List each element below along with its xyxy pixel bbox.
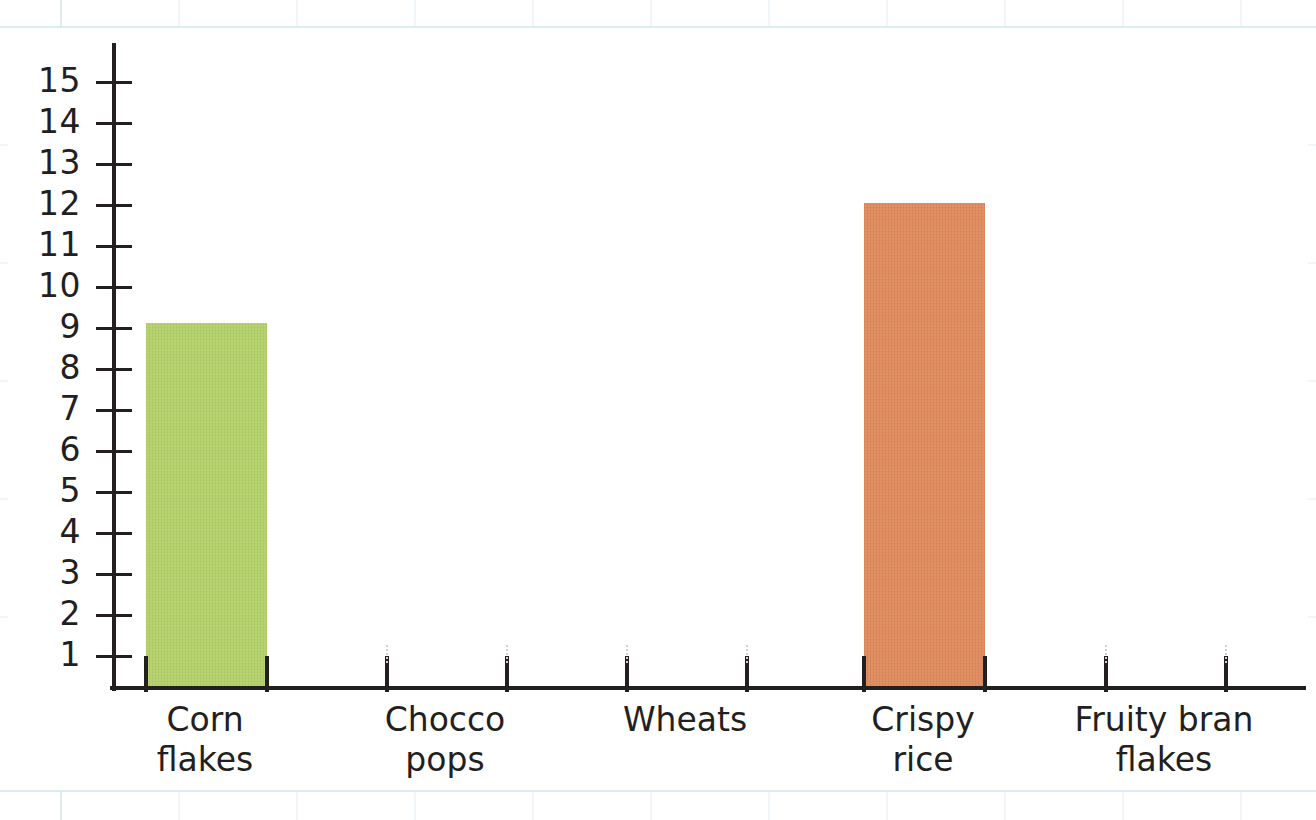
x-cat-line-1: Corn: [166, 700, 243, 739]
tick-guide-dotted: [1225, 645, 1227, 663]
y-axis-tick: [96, 450, 132, 453]
tick-guide-dotted: [506, 645, 508, 663]
y-axis-tick: [96, 655, 132, 658]
x-axis-line: [110, 686, 1306, 690]
x-axis-tick: [983, 656, 987, 692]
tick-guide-dotted: [746, 645, 748, 663]
x-cat-line-2: pops: [405, 740, 484, 779]
x-cat-line-2: rice: [892, 740, 953, 779]
y-axis-tick: [96, 81, 132, 84]
x-cat-line-1: Crispy: [871, 700, 974, 739]
y-axis-tick-label: 4: [21, 515, 81, 548]
y-axis-tick-label: 10: [21, 269, 81, 302]
y-axis-tick: [96, 286, 132, 289]
y-axis-tick-label: 1: [21, 638, 81, 671]
y-axis-tick-label: 2: [21, 597, 81, 630]
y-axis-tick-label: 14: [21, 105, 81, 138]
bar-chart-figure: 15 14 13 12 11 10 9 8 7 6 5 4 3 2 1 Corn…: [0, 0, 1316, 820]
x-axis-tick: [862, 656, 866, 692]
x-axis-category-label-corn-flakes: Cornflakes: [125, 700, 285, 780]
x-cat-line-1: Chocco: [385, 700, 506, 739]
x-axis-tick: [265, 656, 269, 692]
y-axis-tick: [96, 614, 132, 617]
y-axis-tick-label: 6: [21, 433, 81, 466]
x-axis-category-label-wheats: Wheats: [605, 700, 765, 740]
y-axis-tick: [96, 368, 132, 371]
y-axis-tick: [96, 327, 132, 330]
y-axis-tick: [96, 245, 132, 248]
y-axis-tick-label: 11: [21, 228, 81, 261]
y-axis-tick: [96, 409, 132, 412]
y-axis-tick: [96, 163, 132, 166]
y-axis-tick-label: 8: [21, 351, 81, 384]
tick-guide-dotted: [626, 645, 628, 663]
bar-corn-flakes: [146, 323, 267, 688]
x-axis-category-label-chocco-pops: Choccopops: [365, 700, 525, 780]
x-cat-line-2: flakes: [157, 740, 253, 779]
x-cat-line-2: flakes: [1116, 740, 1212, 779]
y-axis-tick: [96, 122, 132, 125]
y-axis-tick: [96, 204, 132, 207]
x-cat-line-1: Fruity bran: [1075, 700, 1254, 739]
y-axis-tick-label: 5: [21, 474, 81, 507]
y-axis-tick-label: 15: [21, 64, 81, 97]
x-cat-line-1: Wheats: [623, 700, 747, 739]
y-axis-tick-label: 12: [21, 187, 81, 220]
tick-guide-dotted: [386, 645, 388, 663]
y-axis-tick-label: 13: [21, 146, 81, 179]
y-axis-tick-label: 3: [21, 556, 81, 589]
bar-crispy-rice: [864, 203, 985, 688]
tick-guide-dotted: [1105, 645, 1107, 663]
x-axis-tick: [144, 656, 148, 692]
y-axis-line: [112, 43, 116, 691]
y-axis-tick: [96, 491, 132, 494]
y-axis-tick: [96, 573, 132, 576]
y-axis-tick-label: 9: [21, 310, 81, 343]
x-axis-category-label-fruity-bran-flakes: Fruity branflakes: [1064, 700, 1264, 780]
y-axis-tick: [96, 532, 132, 535]
y-axis-tick-label: 7: [21, 392, 81, 425]
x-axis-category-label-crispy-rice: Crispyrice: [843, 700, 1003, 780]
